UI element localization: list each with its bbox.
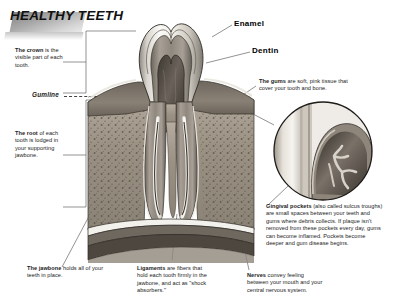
label-gumline: Gumline xyxy=(32,91,59,98)
note-crown-lead: The crown xyxy=(15,47,43,53)
diagram-page: HEALTHY TEETH xyxy=(0,0,396,308)
label-dentin: Dentin xyxy=(252,46,279,55)
note-crown: The crown is the visible part of each to… xyxy=(15,47,63,69)
note-jawbone-lead: The jawbone xyxy=(27,265,61,271)
note-nerves: Nerves convey feeling between your mouth… xyxy=(247,272,327,294)
note-gingival-pockets: Gingival pockets (also called sulcus tro… xyxy=(266,203,384,247)
note-gingival-pockets-lead: Gingival pockets xyxy=(266,203,312,209)
note-gums-lead: The gums xyxy=(259,78,286,84)
note-nerves-lead: Nerves xyxy=(247,272,266,278)
tooth-cross-section-illustration xyxy=(86,18,256,263)
note-gums: The gums are soft, pink tissue that cove… xyxy=(259,78,359,93)
note-jawbone: The jawbone holds all of your teeth in p… xyxy=(27,265,113,280)
note-ligaments: Ligaments are fibers that hold each toot… xyxy=(137,265,209,295)
note-root-lead: The root xyxy=(15,130,38,136)
note-ligaments-lead: Ligaments xyxy=(137,265,165,271)
note-gingival-pockets-rest: (also called sulcus troughs) are small s… xyxy=(266,203,382,246)
gingival-pocket-magnifier xyxy=(272,100,374,202)
label-enamel: Enamel xyxy=(234,19,264,28)
note-root: The root of each tooth is lodged in your… xyxy=(15,130,64,160)
